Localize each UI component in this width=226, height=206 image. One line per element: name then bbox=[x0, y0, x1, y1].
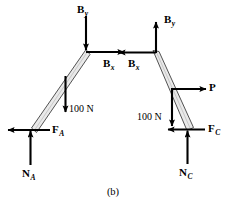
label-left-By: By bbox=[77, 4, 88, 18]
label-left-weight: 100 N bbox=[69, 104, 94, 114]
label-applied-P: P bbox=[209, 82, 216, 96]
label-friction-C: FC bbox=[208, 123, 220, 137]
free-body-diagram-figure: By Bx Bx By 100 N 100 N P FA NA FC NC (b… bbox=[0, 0, 226, 206]
label-normal-A: NA bbox=[22, 168, 35, 182]
label-right-By: By bbox=[164, 14, 175, 28]
label-friction-A: FA bbox=[52, 124, 64, 138]
figure-caption: (b) bbox=[0, 187, 226, 198]
label-left-Bx: Bx bbox=[103, 58, 115, 72]
left-member-bar bbox=[32, 50, 91, 133]
label-normal-C: NC bbox=[179, 167, 192, 181]
label-right-Bx: Bx bbox=[128, 58, 140, 72]
label-right-weight: 100 N bbox=[137, 112, 162, 122]
